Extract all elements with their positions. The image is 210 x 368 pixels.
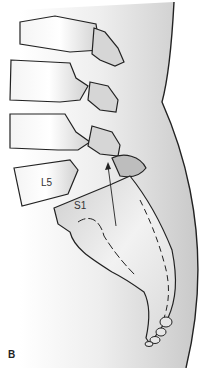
coccyx-segment — [156, 328, 166, 336]
panel-label: B — [8, 349, 15, 360]
label-l5: L5 — [41, 177, 52, 188]
coccyx-segment — [145, 342, 153, 347]
coccyx-segment — [160, 317, 172, 327]
spine-illustration — [0, 0, 210, 368]
label-s1: S1 — [74, 200, 86, 211]
